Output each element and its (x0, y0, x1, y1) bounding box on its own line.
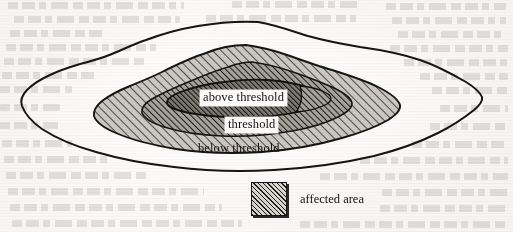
label-above-threshold: above threshold (200, 90, 287, 106)
label-below-threshold: below threshold (198, 142, 280, 155)
legend-label: affected area (300, 192, 364, 207)
figure-container: above threshold threshold below threshol… (0, 0, 513, 232)
legend: affected area (251, 182, 364, 216)
hatched-square-swatch-icon (251, 182, 287, 216)
label-threshold: threshold (225, 117, 278, 133)
